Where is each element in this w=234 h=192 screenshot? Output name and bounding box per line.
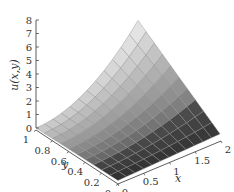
z-tick-label: 5 [26,55,32,66]
z-axis-label: u(x,y) [8,59,21,91]
z-tick-label: 2 [26,96,32,107]
x-tick-label: 0.5 [143,176,159,187]
surface-plot: 012345678u(x,y)00.20.40.60.81y00.511.52x [0,0,234,192]
y-tick [67,152,69,154]
y-tick-label: 1 [23,134,29,145]
z-tick-label: 3 [26,82,32,93]
y-tick [34,130,36,132]
x-axis-label: x [175,172,182,185]
x-tick [118,184,119,186]
z-tick-label: 8 [26,15,32,26]
z-tick-label: 7 [26,28,32,39]
y-tick [50,141,52,143]
z-tick-label: 1 [26,109,32,120]
y-tick [100,173,102,175]
x-tick-label: 0 [122,187,128,192]
x-tick [144,173,145,175]
y-tick-label: 0.4 [67,166,83,177]
y-tick [116,184,118,186]
x-tick [221,141,222,143]
z-tick-label: 0 [26,123,32,134]
y-tick [83,162,85,164]
y-tick-label: 0.8 [34,145,50,156]
x-tick-label: 2 [225,144,231,155]
z-tick-label: 4 [26,69,32,80]
x-tick [195,152,196,154]
x-tick [170,163,171,165]
y-tick-label: 0.2 [84,177,100,188]
y-tick-label: 0 [105,188,111,192]
z-tick-label: 6 [26,42,32,53]
x-tick-label: 1.5 [194,155,210,166]
y-axis-label: y [61,158,69,171]
